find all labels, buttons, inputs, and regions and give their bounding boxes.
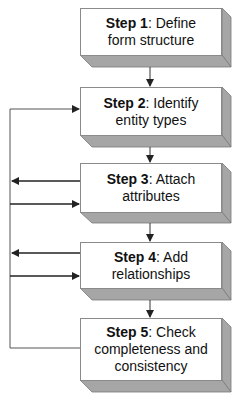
- step-3-bottom: [80, 212, 231, 223]
- step-1-label: Step 1: [106, 15, 148, 31]
- step-1-line1: Step 1: Define: [106, 15, 196, 32]
- feedback-arrows: [10, 181, 80, 276]
- step-5-side: [222, 318, 231, 392]
- step-5-line2: completeness and: [94, 341, 208, 358]
- step-2-text-a: : Identify: [146, 95, 199, 111]
- feedback-line-step5-to-step2: [10, 109, 80, 348]
- step-4-bottom: [80, 288, 231, 300]
- step-5-box: Step 5: Check completeness and consisten…: [80, 318, 222, 381]
- step-2-line1: Step 2: Identify: [104, 95, 199, 112]
- step-4-label: Step 4: [114, 249, 156, 265]
- step-3-text-a: : Attach: [149, 171, 196, 187]
- step-5-text-a: : Check: [148, 324, 195, 340]
- step-5-line1: Step 5: Check: [106, 324, 195, 341]
- step-4-text-a: : Add: [156, 249, 188, 265]
- step-4-line2: relationships: [112, 266, 191, 283]
- step-5-label: Step 5: [106, 324, 148, 340]
- step-3-line2: attributes: [122, 188, 180, 205]
- step-2-bottom: [80, 135, 231, 147]
- step-1-text-a: : Define: [148, 15, 196, 31]
- step-1-bottom: [80, 55, 231, 67]
- feedback-loop: [10, 109, 80, 348]
- step-3-line1: Step 3: Attach: [107, 171, 196, 188]
- step-1-box: Step 1: Define form structure: [80, 8, 222, 56]
- step-5-bottom: [80, 380, 231, 392]
- step-2-label: Step 2: [104, 95, 146, 111]
- step-2-box: Step 2: Identify entity types: [80, 87, 222, 136]
- step-3-label: Step 3: [107, 171, 149, 187]
- step-4-line1: Step 4: Add: [114, 249, 188, 266]
- step-4-box: Step 4: Add relationships: [80, 242, 222, 289]
- step-2-line2: entity types: [116, 112, 187, 129]
- step-1-line2: form structure: [108, 32, 194, 49]
- step-3-box: Step 3: Attach attributes: [80, 163, 222, 213]
- step-5-line3: consistency: [114, 358, 187, 375]
